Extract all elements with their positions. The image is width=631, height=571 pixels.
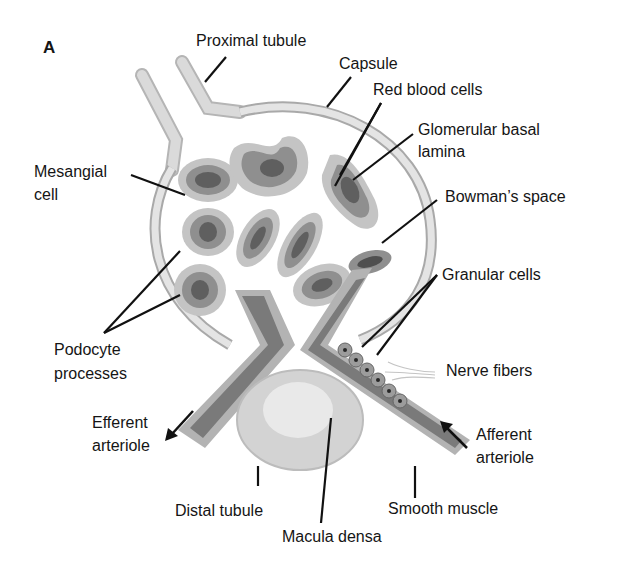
- proximal-tubule-drawing: [142, 62, 240, 170]
- label-bowmans-space: Bowman’s space: [445, 187, 566, 206]
- juxtaglomerular-apparatus-diagram: A Proximal tubule Capsule Red blood cell…: [0, 0, 631, 571]
- glomerular-capillaries: [174, 136, 394, 316]
- diagram-illustration: [0, 0, 631, 571]
- label-afferent-arteriole-2: arteriole: [476, 448, 534, 467]
- panel-letter: A: [43, 38, 55, 57]
- label-efferent-arteriole-1: Efferent: [92, 413, 148, 432]
- label-capsule: Capsule: [339, 54, 398, 73]
- label-efferent-arteriole-2: arteriole: [92, 436, 150, 455]
- label-mesangial-cell-2: cell: [34, 185, 58, 204]
- label-granular-cells: Granular cells: [442, 265, 541, 284]
- label-glomerular-basal-lamina-2: lamina: [418, 142, 465, 161]
- label-macula-densa: Macula densa: [282, 527, 382, 546]
- label-smooth-muscle: Smooth muscle: [388, 499, 498, 518]
- label-distal-tubule: Distal tubule: [175, 501, 263, 520]
- label-podocyte-processes-1: Podocyte: [54, 340, 121, 359]
- label-glomerular-basal-lamina-1: Glomerular basal: [418, 120, 540, 139]
- label-mesangial-cell-1: Mesangial: [34, 162, 107, 181]
- label-nerve-fibers: Nerve fibers: [446, 361, 532, 380]
- label-red-blood-cells: Red blood cells: [373, 80, 482, 99]
- nerve-fibers-drawing: [385, 362, 435, 380]
- label-afferent-arteriole-1: Afferent: [476, 425, 532, 444]
- distal-tubule-drawing: [237, 370, 363, 470]
- label-podocyte-processes-2: processes: [54, 364, 127, 383]
- label-proximal-tubule: Proximal tubule: [196, 31, 306, 50]
